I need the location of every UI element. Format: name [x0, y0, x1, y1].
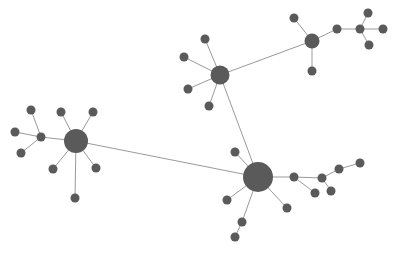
- hub-node: [64, 129, 88, 153]
- leaf-node: [327, 187, 336, 196]
- graph-edge: [76, 141, 258, 177]
- leaf-node: [238, 218, 247, 227]
- graph-edge: [220, 75, 258, 177]
- leaf-node: [311, 189, 320, 198]
- leaf-node: [184, 85, 193, 94]
- leaf-node: [17, 149, 26, 158]
- leaf-node: [283, 204, 292, 213]
- leaf-node: [180, 53, 189, 62]
- leaf-node: [290, 173, 299, 182]
- leaf-node: [356, 159, 365, 168]
- hub-node: [211, 66, 230, 85]
- graph-nodes: [11, 9, 388, 242]
- leaf-node: [333, 25, 342, 34]
- leaf-node: [201, 35, 210, 44]
- leaf-node: [335, 165, 344, 174]
- graph-edges: [15, 13, 383, 237]
- network-graph: [0, 0, 400, 253]
- leaf-node: [231, 148, 240, 157]
- leaf-node: [308, 67, 317, 76]
- leaf-node: [92, 164, 101, 173]
- leaf-node: [89, 108, 98, 117]
- leaf-node: [290, 14, 299, 23]
- leaf-node: [11, 128, 20, 137]
- graph-edge: [220, 41, 312, 75]
- hub-node: [243, 162, 273, 192]
- leaf-node: [49, 165, 58, 174]
- leaf-node: [379, 25, 388, 34]
- leaf-node: [37, 133, 46, 142]
- leaf-node: [231, 233, 240, 242]
- leaf-node: [223, 196, 232, 205]
- leaf-node: [71, 194, 80, 203]
- leaf-node: [365, 41, 374, 50]
- hub-node: [305, 34, 320, 49]
- leaf-node: [57, 108, 66, 117]
- leaf-node: [364, 9, 373, 18]
- leaf-node: [356, 25, 365, 34]
- leaf-node: [27, 106, 36, 115]
- leaf-node: [205, 102, 214, 111]
- leaf-node: [318, 174, 327, 183]
